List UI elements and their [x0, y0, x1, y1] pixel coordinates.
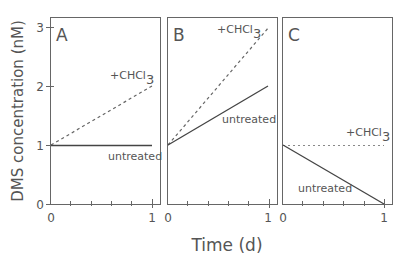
- panel-b-label: B: [173, 25, 185, 45]
- panel-a-x-tick-0: 0: [47, 211, 55, 225]
- y-tick-0: 0: [36, 198, 44, 212]
- y-tick-3: 3: [36, 21, 44, 35]
- panel-c-label: C: [288, 25, 300, 45]
- x-axis-label: Time (d): [190, 235, 262, 255]
- panel-b-x-tick-0: 0: [164, 211, 172, 225]
- panel-a-frame: [51, 18, 161, 205]
- chart-figure: DMS concentration (nM) 0 1 2 3 0 1 A +CH…: [0, 0, 406, 266]
- panel-a-chcl3-label: +CHCl3: [110, 69, 154, 87]
- y-tick-labels: 0 1 2 3: [36, 21, 44, 212]
- panel-c-x-tick-1: 1: [380, 211, 388, 225]
- panel-a-x-tick-1: 1: [148, 211, 156, 225]
- panel-c-untreated-label: untreated: [298, 182, 352, 195]
- panel-c-x-tick-0: 0: [279, 211, 287, 225]
- panel-b: 0 1 B +CHCl3 untreated: [164, 18, 277, 226]
- panel-b-chcl3-label: +CHCl3: [217, 23, 261, 41]
- panel-a: 0 1 A +CHCl3 untreated: [46, 18, 162, 226]
- panel-a-untreated-label: untreated: [108, 150, 162, 163]
- panel-b-untreated-label: untreated: [222, 113, 276, 126]
- panel-a-label: A: [56, 25, 68, 45]
- panel-c-chcl3-label: +CHCl3: [346, 126, 390, 144]
- y-tick-2: 2: [36, 80, 44, 94]
- panel-b-frame: [168, 18, 278, 205]
- y-tick-1: 1: [36, 139, 44, 153]
- y-axis-label: DMS concentration (nM): [9, 20, 27, 202]
- panel-c: 0 1 C +CHCl3 untreated: [279, 18, 392, 226]
- panel-a-chcl3-line: [51, 86, 152, 145]
- panel-b-x-tick-1: 1: [264, 211, 272, 225]
- panel-c-untreated-line: [283, 145, 384, 204]
